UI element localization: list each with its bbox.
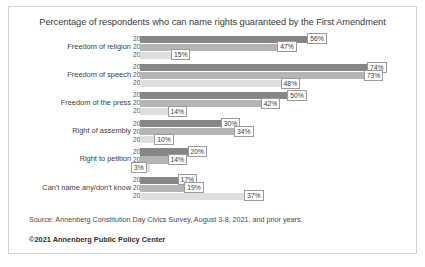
bar[interactable]	[140, 92, 306, 99]
bar-row: 202019%	[9, 184, 418, 192]
bar[interactable]	[140, 100, 280, 107]
source-note: Source: Annenberg Constitution Day Civic…	[29, 215, 303, 224]
bar-row: 20173%	[9, 164, 418, 172]
bar-row: 202042%	[9, 99, 418, 107]
bar-group: Right to petition202120%202014%20173%	[9, 148, 418, 172]
bar-value-label: 37%	[244, 190, 264, 201]
bar-row: 202174%	[9, 63, 418, 71]
bar[interactable]	[140, 80, 300, 87]
bar-group: Freedom of religion202156%202047%201715%	[9, 35, 418, 59]
bar-value-label: 15%	[171, 49, 191, 60]
bar-value-label: 10%	[154, 134, 174, 145]
bar[interactable]	[140, 64, 386, 71]
bar-row: 202047%	[9, 43, 418, 51]
bar[interactable]	[140, 72, 383, 79]
copyright-note: ©2021 Annenberg Public Policy Center	[29, 235, 165, 244]
bar-row: 202150%	[9, 91, 418, 99]
bar-value-label: 14%	[168, 106, 188, 117]
bar-value-label: 3%	[131, 162, 147, 173]
bar-row: 202120%	[9, 148, 418, 156]
bar-row: 201737%	[9, 192, 418, 200]
chart-frame: Percentage of respondents who can name r…	[8, 6, 417, 254]
bar-row: 202034%	[9, 128, 418, 136]
bar-row: 202156%	[9, 35, 418, 43]
chart-title: Percentage of respondents who can name r…	[9, 17, 416, 27]
bar[interactable]	[140, 36, 326, 43]
bar[interactable]	[140, 44, 296, 51]
bar-value-label: 48%	[281, 78, 301, 89]
bar-row: 201710%	[9, 136, 418, 144]
chart-plot-area: Freedom of religion202156%202047%201715%…	[9, 35, 418, 207]
bar-row: 201714%	[9, 107, 418, 115]
bar-group: Can't name any/don't know202117%202019%2…	[9, 176, 418, 200]
bar-group: Right of assembly202130%202034%201710%	[9, 120, 418, 144]
bar-group: Freedom of speech202174%202073%201748%	[9, 63, 418, 87]
bar-row: 202073%	[9, 71, 418, 79]
bar-row: 202130%	[9, 120, 418, 128]
bar-row: 202014%	[9, 156, 418, 164]
bar-row: 201748%	[9, 79, 418, 87]
bar-row: 201715%	[9, 51, 418, 59]
bar-row: 202117%	[9, 176, 418, 184]
bar-group: Freedom of the press202150%202042%201714…	[9, 91, 418, 115]
